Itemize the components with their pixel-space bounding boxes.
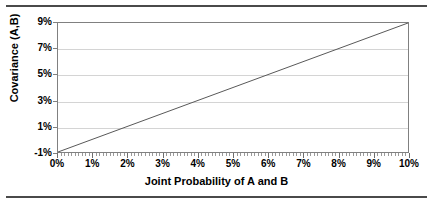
x-tick-minor-mark <box>363 153 364 156</box>
x-tick-mark <box>303 153 304 158</box>
x-tick-minor-mark <box>384 153 385 156</box>
x-tick-minor-mark <box>99 153 100 156</box>
y-tick-mark <box>53 48 57 49</box>
x-tick-minor-mark <box>134 153 135 156</box>
x-tick-minor-mark <box>113 153 114 156</box>
x-tick-minor-mark <box>106 153 107 156</box>
y-tick-label: 1% <box>8 122 52 132</box>
x-tick-mark <box>92 153 93 158</box>
x-tick-minor-mark <box>237 153 238 156</box>
x-tick-minor-mark <box>279 153 280 156</box>
x-tick-mark <box>163 153 164 158</box>
x-tick-minor-mark <box>395 153 396 156</box>
x-tick-minor-mark <box>398 153 399 156</box>
x-tick-mark <box>374 153 375 158</box>
x-tick-minor-mark <box>356 153 357 156</box>
x-tick-minor-mark <box>191 153 192 156</box>
x-tick-minor-mark <box>110 153 111 156</box>
x-tick-minor-mark <box>226 153 227 156</box>
x-tick-minor-mark <box>402 153 403 156</box>
x-tick-mark <box>268 153 269 158</box>
x-tick-label: 5% <box>213 158 253 169</box>
y-tick-mark <box>53 127 57 128</box>
x-tick-mark <box>233 153 234 158</box>
x-tick-label: 2% <box>107 158 147 169</box>
x-tick-minor-mark <box>64 153 65 156</box>
x-tick-minor-mark <box>349 153 350 156</box>
plot-frame <box>57 22 409 153</box>
x-tick-minor-mark <box>177 153 178 156</box>
x-tick-minor-mark <box>370 153 371 156</box>
x-tick-minor-mark <box>138 153 139 156</box>
series-line-covariance <box>58 23 408 152</box>
x-tick-minor-mark <box>244 153 245 156</box>
x-tick-minor-mark <box>310 153 311 156</box>
x-tick-minor-mark <box>300 153 301 156</box>
x-tick-minor-mark <box>381 153 382 156</box>
x-tick-minor-mark <box>159 153 160 156</box>
x-tick-minor-mark <box>89 153 90 156</box>
x-tick-minor-mark <box>377 153 378 156</box>
x-tick-label: 1% <box>72 158 112 169</box>
x-tick-minor-mark <box>321 153 322 156</box>
y-tick-mark <box>53 101 57 102</box>
x-tick-label: 3% <box>143 158 183 169</box>
x-tick-mark <box>198 153 199 158</box>
y-tick-label: 5% <box>8 69 52 79</box>
x-tick-minor-mark <box>82 153 83 156</box>
x-tick-minor-mark <box>184 153 185 156</box>
x-tick-minor-mark <box>272 153 273 156</box>
x-tick-minor-mark <box>131 153 132 156</box>
x-tick-label: 10% <box>389 158 429 169</box>
x-tick-minor-mark <box>289 153 290 156</box>
clipped-caption: Joint Probability of A and B <box>0 0 433 1</box>
x-tick-minor-mark <box>96 153 97 156</box>
x-tick-minor-mark <box>212 153 213 156</box>
x-tick-minor-mark <box>215 153 216 156</box>
y-tick-label: 9% <box>8 17 52 27</box>
x-tick-minor-mark <box>296 153 297 156</box>
x-tick-minor-mark <box>282 153 283 156</box>
x-tick-minor-mark <box>173 153 174 156</box>
x-tick-minor-mark <box>247 153 248 156</box>
x-tick-minor-mark <box>75 153 76 156</box>
x-tick-minor-mark <box>346 153 347 156</box>
x-tick-minor-mark <box>405 153 406 156</box>
x-tick-minor-mark <box>388 153 389 156</box>
x-tick-minor-mark <box>170 153 171 156</box>
x-tick-minor-mark <box>293 153 294 156</box>
x-tick-minor-mark <box>219 153 220 156</box>
x-tick-minor-mark <box>61 153 62 156</box>
x-tick-label: 8% <box>319 158 359 169</box>
x-tick-minor-mark <box>205 153 206 156</box>
x-tick-minor-mark <box>332 153 333 156</box>
x-tick-minor-mark <box>201 153 202 156</box>
x-tick-minor-mark <box>156 153 157 156</box>
x-tick-minor-mark <box>187 153 188 156</box>
x-tick-minor-mark <box>85 153 86 156</box>
x-tick-minor-mark <box>145 153 146 156</box>
x-tick-minor-mark <box>152 153 153 156</box>
x-tick-label: 0% <box>37 158 77 169</box>
y-tick-label: 3% <box>8 96 52 106</box>
x-tick-minor-mark <box>149 153 150 156</box>
x-tick-minor-mark <box>265 153 266 156</box>
x-tick-minor-mark <box>275 153 276 156</box>
x-tick-minor-mark <box>103 153 104 156</box>
x-tick-minor-mark <box>328 153 329 156</box>
x-tick-minor-mark <box>166 153 167 156</box>
x-axis-title: Joint Probability of A and B <box>0 175 433 187</box>
x-tick-minor-mark <box>314 153 315 156</box>
x-tick-minor-mark <box>325 153 326 156</box>
x-tick-minor-mark <box>141 153 142 156</box>
x-tick-minor-mark <box>78 153 79 156</box>
x-tick-minor-mark <box>194 153 195 156</box>
x-tick-minor-mark <box>180 153 181 156</box>
bottom-rule <box>6 196 427 198</box>
x-tick-minor-mark <box>286 153 287 156</box>
x-tick-minor-mark <box>258 153 259 156</box>
x-tick-minor-mark <box>335 153 336 156</box>
x-tick-minor-mark <box>68 153 69 156</box>
top-rule <box>6 5 427 7</box>
x-tick-minor-mark <box>251 153 252 156</box>
